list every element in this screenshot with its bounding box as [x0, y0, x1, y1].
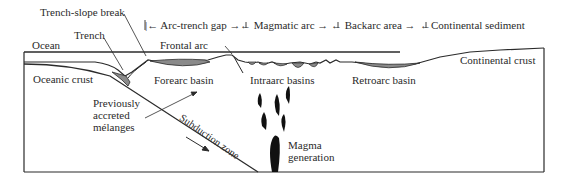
zone-label: Arc-trench gap [160, 19, 226, 31]
label-magma-2: generation [288, 151, 334, 163]
forearc-basin-fill [150, 59, 210, 66]
label-oceanic-crust: Oceanic crust [33, 73, 93, 85]
label-frontal-arc: Frontal arc [160, 39, 208, 51]
retroarc-basin-fill [355, 62, 420, 68]
zone-continental-sediment: ←Continental sediment [420, 19, 525, 31]
magma-bodies [258, 86, 290, 172]
label-melanges-3: mélanges [93, 121, 135, 133]
intraarc-basins-fill [248, 62, 318, 68]
zone-label: Backarc area [345, 19, 402, 31]
label-retroarc-basin: Retroarc basin [352, 74, 416, 86]
frontal-arc-fault [234, 57, 243, 73]
zone-magmatic-arc: ← Magmatic arc → [240, 19, 328, 31]
label-trench: Trench [74, 29, 105, 41]
zone-arc-trench-gap: |← Arc-trench gap → [145, 19, 240, 31]
trench-wedge [128, 62, 146, 78]
label-magma-1: Magma [288, 139, 322, 151]
zone-backarc-area: ← Backarc area → [331, 19, 416, 31]
label-forearc-basin: Forearc basin [154, 74, 214, 86]
label-melanges-2: accreted [93, 109, 130, 121]
label-trench-slope-break: Trench-slope break [40, 6, 125, 18]
label-intraarc-basins: Intraarc basins [250, 74, 314, 86]
label-melanges-1: Previously [93, 97, 140, 109]
label-continental-crust: Continental crust [460, 54, 535, 66]
zone-label: Magmatic arc [254, 19, 315, 31]
label-ocean: Ocean [32, 39, 60, 51]
zone-label: Continental sediment [431, 19, 525, 31]
